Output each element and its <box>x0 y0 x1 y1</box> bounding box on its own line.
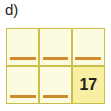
cell-bar-marker <box>10 57 36 60</box>
cell-value-label: 17 <box>73 77 104 93</box>
grid-cell-r2c2 <box>40 67 71 103</box>
cell-grid: 17 <box>6 28 105 104</box>
grid-cell-r1c1 <box>7 29 38 65</box>
cell-bar-marker <box>10 95 36 98</box>
cell-bar-marker <box>43 95 69 98</box>
grid-cell-r1c2 <box>40 29 71 65</box>
panel-label: d) <box>5 2 18 17</box>
cell-bar-marker <box>43 57 69 60</box>
grid-cell-r2c3: 17 <box>73 67 104 103</box>
grid-cell-r1c3 <box>73 29 104 65</box>
figure-panel: d) 17 <box>0 0 111 111</box>
cell-bar-marker <box>75 57 101 60</box>
grid-cell-r2c1 <box>7 67 38 103</box>
